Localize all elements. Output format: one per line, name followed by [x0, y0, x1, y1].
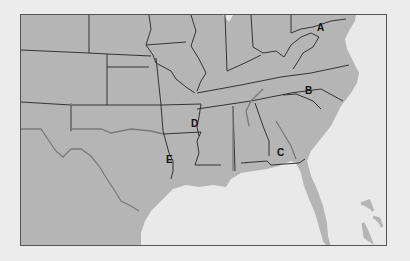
- map-frame: [20, 14, 387, 246]
- region-label-d: D: [191, 119, 198, 129]
- region-label-b: B: [305, 86, 312, 96]
- region-label-c: C: [277, 148, 284, 158]
- region-label-a: A: [317, 23, 324, 33]
- page: A B C D E: [0, 0, 410, 261]
- southeast-us-map: [21, 15, 387, 246]
- region-label-e: E: [166, 155, 173, 165]
